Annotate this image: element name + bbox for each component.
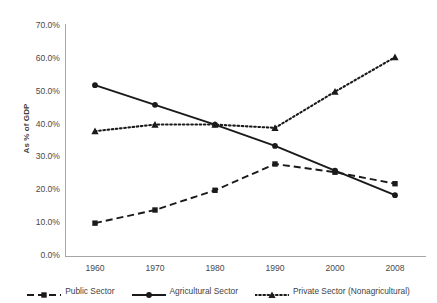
data-point-marker: [152, 102, 158, 108]
legend-item[interactable]: Public Sector: [27, 286, 114, 296]
legend-item-label: Public Sector: [65, 286, 114, 296]
series-1: [92, 161, 397, 226]
y-axis-tick-label: 60.0%: [16, 54, 60, 63]
series-3: [91, 54, 398, 135]
series-line: [95, 85, 395, 195]
data-point-marker: [272, 143, 278, 149]
x-axis-tick-label: 2008: [385, 263, 404, 273]
chart-container: As % of GDP 70.0%60.0%50.0%40.0%30.0%20.…: [0, 0, 437, 303]
data-point-marker: [392, 181, 397, 186]
legend-item[interactable]: Agricultural Sector: [132, 286, 238, 296]
chart-legend: Public SectorAgricultural SectorPrivate …: [0, 283, 437, 299]
data-point-marker: [272, 161, 277, 166]
legend-key-square-icon: [27, 286, 61, 296]
data-point-marker: [92, 82, 98, 88]
data-point-marker: [332, 168, 338, 174]
legend-item[interactable]: Private Sector (Nonagricultural): [255, 286, 410, 296]
legend-key-triangle-icon: [255, 286, 289, 296]
series-line: [95, 57, 395, 131]
legend-item-label: Private Sector (Nonagricultural): [293, 286, 410, 296]
series-lines: [65, 26, 425, 256]
x-axis-tick-label: 1980: [205, 263, 224, 273]
data-point-marker: [152, 207, 157, 212]
x-axis-tick-label: 1970: [145, 263, 164, 273]
x-axis-tick-labels: 196019701980199020002008: [65, 263, 425, 277]
x-axis-tick-label: 2000: [325, 263, 344, 273]
series-line: [95, 164, 395, 223]
x-axis-tick-label: 1990: [265, 263, 284, 273]
y-axis-tick-label: 0.0%: [16, 251, 60, 260]
data-point-marker: [92, 220, 97, 225]
data-point-marker: [212, 188, 217, 193]
y-axis-tick-label: 50.0%: [16, 87, 60, 96]
y-axis-tick-label: 30.0%: [16, 152, 60, 161]
y-axis-tick-label: 20.0%: [16, 185, 60, 194]
data-point-marker: [392, 192, 398, 198]
legend-key-circle-icon: [132, 286, 166, 296]
y-axis-tick-label: 40.0%: [16, 120, 60, 129]
data-point-marker: [391, 54, 398, 61]
plot-area: [65, 26, 425, 256]
y-axis-tick-labels: 70.0%60.0%50.0%40.0%30.0%20.0%10.0%0.0%: [16, 0, 60, 303]
data-point-marker: [41, 292, 46, 297]
y-axis-tick-label: 70.0%: [16, 21, 60, 30]
y-axis-tick-label: 10.0%: [16, 218, 60, 227]
data-point-marker: [146, 292, 152, 298]
legend-item-label: Agricultural Sector: [170, 286, 238, 296]
x-axis-line: [65, 256, 426, 257]
x-axis-tick-label: 1960: [85, 263, 104, 273]
series-2: [92, 82, 398, 198]
